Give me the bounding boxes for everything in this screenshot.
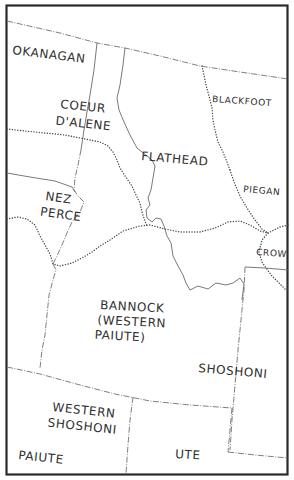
- map-frame: [7, 6, 288, 475]
- crow-west-boundary: [259, 233, 286, 290]
- flathead-river-line: [142, 152, 244, 300]
- label-paiute: PAIUTE: [18, 448, 65, 467]
- tribal-territories-map: OKANAGAN COEUR D'ALENE BLACKFOOT FLATHEA…: [0, 0, 294, 480]
- main-dotted-boundary: [7, 217, 268, 266]
- piegan-west-boundary: [230, 170, 268, 233]
- label-shoshoni: SHOSHONI: [198, 361, 268, 381]
- crow-boundary: [268, 225, 288, 233]
- label-piegan: PIEGAN: [243, 184, 281, 197]
- map-canvas: OKANAGAN COEUR D'ALENE BLACKFOOT FLATHEA…: [0, 0, 294, 480]
- bannock-west-boundary: [40, 264, 56, 368]
- nez-perce-north-boundary: [7, 173, 75, 192]
- western-shoshoni-ute-boundary: [126, 397, 133, 474]
- label-nez-perce: NEZ PERCE: [39, 189, 84, 224]
- label-ute: UTE: [175, 447, 201, 462]
- label-western-shoshoni: WESTERN SHOSHONI: [47, 400, 121, 437]
- label-flathead: FLATHEAD: [141, 149, 209, 169]
- label-bannock: BANNOCK (WESTERN PAIUTE): [94, 298, 171, 346]
- coeur-flathead-boundary: [117, 48, 142, 152]
- label-coeur-dalene: COEUR D'ALENE: [55, 97, 114, 134]
- label-blackfoot: BLACKFOOT: [212, 94, 272, 108]
- label-okanagan: OKANAGAN: [12, 43, 87, 66]
- ute-southeast-boundary: [228, 452, 288, 458]
